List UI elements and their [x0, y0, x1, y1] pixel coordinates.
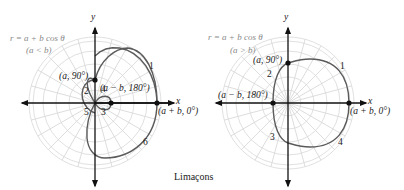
left-point-180 — [108, 100, 113, 105]
right-point-0 — [346, 100, 351, 105]
right-seg-2: 2 — [267, 70, 272, 80]
left-seg-6: 6 — [143, 138, 148, 148]
right-point-180 — [270, 100, 275, 105]
right-point-90 — [285, 60, 290, 65]
left-equation: r = a + b cos θ — [10, 34, 65, 43]
left-seg-4: 4 — [101, 85, 106, 95]
right-x-label: x — [368, 97, 372, 107]
left-y-label: y — [91, 13, 95, 23]
left-x-label: x — [176, 97, 180, 107]
limacon-diagram — [0, 0, 404, 190]
right-seg-4: 4 — [338, 138, 343, 148]
left-seg-1: 1 — [149, 62, 154, 72]
left-label-p0: (a + b, 0°) — [158, 107, 198, 117]
right-equation: r = a + b cos θ — [208, 33, 263, 42]
right-y-label: y — [284, 13, 288, 23]
right-label-p180: (a − b, 180°) — [218, 91, 268, 101]
left-label-p180: (a − b, 180°) — [100, 84, 150, 94]
right-condition: (a > b) — [230, 46, 256, 55]
right-seg-1: 1 — [340, 62, 345, 72]
left-point-90 — [92, 77, 97, 82]
left-label-p90: (a, 90°) — [59, 72, 88, 82]
left-seg-5: 5 — [84, 108, 89, 118]
right-label-p0: (a + b, 0°) — [350, 107, 390, 117]
left-point-0 — [154, 100, 159, 105]
figure-caption: Limaçons — [174, 172, 213, 182]
right-seg-3: 3 — [270, 133, 275, 143]
right-label-p90: (a, 90°) — [253, 56, 282, 66]
left-condition: (a < b) — [26, 46, 52, 55]
left-seg-3: 3 — [101, 108, 106, 118]
left-seg-2: 2 — [84, 87, 89, 97]
